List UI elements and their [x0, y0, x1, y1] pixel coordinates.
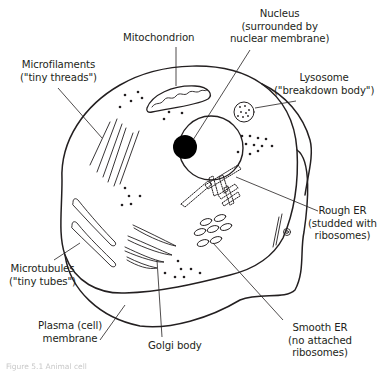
label-smooth-er: Smooth ER (no attached ribosomes) — [288, 322, 352, 360]
label-nucleus: Nucleus (surrounded by nuclear membrane) — [230, 8, 329, 46]
label-line: ("breakdown body") — [274, 85, 374, 98]
label-mitochondrion: Mitochondrion — [123, 32, 194, 45]
label-line: Lysosome — [274, 72, 374, 85]
label-plasma-membrane: Plasma (cell) membrane — [38, 320, 102, 345]
label-microtubules: Microtubules ("tiny tubes") — [9, 263, 76, 288]
label-lysosome: Lysosome ("breakdown body") — [274, 72, 374, 97]
lysosome — [234, 102, 254, 122]
label-line: Plasma (cell) — [38, 320, 102, 333]
nucleolus — [173, 135, 197, 159]
label-line: Golgi body — [148, 340, 202, 353]
label-line: Smooth ER — [288, 322, 352, 335]
label-line: ("tiny threads") — [20, 72, 97, 85]
leader-plasma-membrane — [100, 305, 125, 340]
label-line: (no attached — [288, 335, 352, 348]
label-line: (studded with — [308, 218, 377, 231]
cell-right-edge — [262, 84, 311, 195]
cell-side-wall — [65, 150, 308, 327]
leader-microfilaments — [58, 88, 102, 138]
label-line: ("tiny tubes") — [9, 276, 76, 289]
mitochondrion-cristae — [152, 90, 207, 107]
microtubules — [72, 199, 116, 267]
label-golgi-body: Golgi body — [148, 340, 202, 353]
microfilaments — [90, 119, 139, 186]
animal-cell-diagram — [0, 0, 387, 374]
label-line: Mitochondrion — [123, 32, 194, 45]
leader-golgi — [157, 260, 162, 337]
golgi-body — [125, 225, 176, 269]
label-line: (surrounded by — [230, 21, 329, 34]
leader-microtubules — [54, 243, 80, 260]
leader-nucleus — [193, 50, 250, 140]
label-line: Nucleus — [230, 8, 329, 21]
label-line: Microfilaments — [20, 59, 97, 72]
label-line: nuclear membrane) — [230, 33, 329, 46]
mitochondrion — [147, 86, 210, 112]
smooth-er — [193, 213, 232, 248]
ribosome-dots — [119, 91, 274, 279]
figure-caption: Figure 5.1 Animal cell — [6, 362, 87, 371]
cell-top-surface — [61, 66, 298, 293]
label-line: Microtubules — [9, 263, 76, 276]
label-line: ribosomes) — [308, 230, 377, 243]
label-line: Rough ER — [308, 205, 377, 218]
label-microfilaments: Microfilaments ("tiny threads") — [20, 59, 97, 84]
label-rough-er: Rough ER (studded with ribosomes) — [308, 205, 377, 243]
lysosome-granules — [237, 105, 250, 118]
label-line: membrane — [38, 333, 102, 346]
vesicle — [273, 214, 291, 247]
label-line: ribosomes) — [288, 347, 352, 360]
